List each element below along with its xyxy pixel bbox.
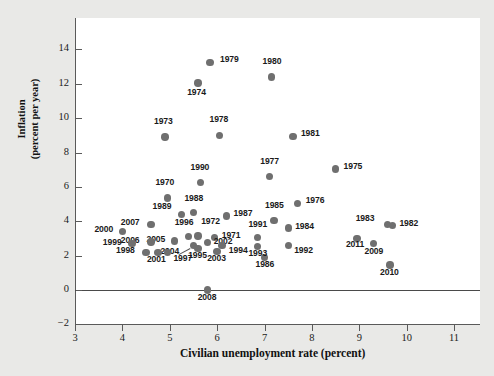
y-tick-mark <box>76 324 82 325</box>
y-tick-label: 10 <box>47 111 69 122</box>
scatter-point <box>285 242 292 249</box>
scatter-point-label: 2010 <box>380 267 399 277</box>
scatter-point-label: 2003 <box>207 253 226 263</box>
y-tick-mark <box>76 187 82 188</box>
scatter-point-label: 1982 <box>399 218 418 228</box>
scatter-point-label: 1985 <box>265 200 284 210</box>
x-tick-mark <box>170 325 171 331</box>
y-tick-mark <box>76 118 82 119</box>
x-axis-line <box>75 324 480 325</box>
x-tick-label: 11 <box>442 332 466 343</box>
scatter-point-label: 2000 <box>94 224 113 234</box>
scatter-point-label: 1989 <box>153 201 172 211</box>
scatter-point-label: 1994 <box>229 245 248 255</box>
scatter-point <box>194 232 201 239</box>
x-tick-label: 3 <box>63 332 87 343</box>
scatter-point-label: 1978 <box>209 114 228 124</box>
scatter-point-label: 2009 <box>364 246 383 256</box>
y-tick-mark <box>76 290 82 291</box>
scatter-point-label: 1984 <box>295 221 314 231</box>
scatter-point-label: 1997 <box>173 253 192 263</box>
scatter-point-label: 1977 <box>260 156 279 166</box>
scatter-point-label: 1973 <box>154 116 173 126</box>
x-tick-label: 6 <box>205 332 229 343</box>
scatter-point-label: 1979 <box>220 54 239 64</box>
x-tick-mark <box>454 325 455 331</box>
x-tick-label: 10 <box>395 332 419 343</box>
x-tick-mark <box>359 325 360 331</box>
scatter-point-label: 2011 <box>346 239 364 249</box>
y-axis-line <box>75 18 76 325</box>
scatter-point-label: 1981 <box>301 128 320 138</box>
scatter-point-label: 1976 <box>306 195 325 205</box>
scatter-point-label: 2007 <box>121 217 140 227</box>
x-axis-label: Civilian unemployment rate (percent) <box>180 347 480 359</box>
scatter-point <box>268 73 275 80</box>
zero-reference-line <box>75 290 480 291</box>
y-tick-label: 2 <box>47 249 69 260</box>
x-tick-label: 9 <box>347 332 371 343</box>
scatter-point <box>161 133 168 140</box>
scatter-point-label: 1993 <box>248 248 267 258</box>
x-tick-mark <box>217 325 218 331</box>
scatter-point <box>206 59 213 66</box>
scatter-point <box>171 237 178 244</box>
figure-canvas: Inflation (percent per year) Civilian un… <box>0 0 494 376</box>
y-tick-label: 4 <box>47 214 69 225</box>
y-tick-label: 6 <box>47 180 69 191</box>
scatter-point-label: 1987 <box>234 208 253 218</box>
x-tick-mark <box>407 325 408 331</box>
x-tick-mark <box>75 325 76 331</box>
y-tick-mark <box>76 153 82 154</box>
scatter-point-label: 1992 <box>294 245 313 255</box>
y-tick-label: 0 <box>47 283 69 294</box>
scatter-point-label: 1998 <box>116 245 135 255</box>
y-tick-label: 14 <box>47 42 69 53</box>
x-tick-mark <box>265 325 266 331</box>
scatter-point-label: 2001 <box>147 254 166 264</box>
scatter-point <box>147 221 154 228</box>
scatter-point <box>164 249 171 256</box>
y-tick-label: 8 <box>47 146 69 157</box>
scatter-point-label: 1983 <box>356 213 375 223</box>
y-tick-mark <box>76 256 82 257</box>
scatter-point <box>289 133 296 140</box>
x-tick-label: 7 <box>253 332 277 343</box>
scatter-point-label: 1974 <box>187 87 206 97</box>
y-axis-label-line2: (percent per year) <box>28 39 41 199</box>
x-tick-label: 4 <box>110 332 134 343</box>
scatter-point-label: 1975 <box>344 161 363 171</box>
scatter-point-label: 1991 <box>248 219 267 229</box>
x-tick-mark <box>122 325 123 331</box>
y-axis-label: Inflation (percent per year) <box>15 39 41 199</box>
y-tick-mark <box>76 84 82 85</box>
y-tick-mark <box>76 49 82 50</box>
scatter-point <box>147 238 154 245</box>
scatter-point-label: 1990 <box>191 162 210 172</box>
scatter-point <box>194 79 201 86</box>
scatter-point-label: 1970 <box>155 177 174 187</box>
x-tick-label: 8 <box>300 332 324 343</box>
scatter-point-label: 1988 <box>184 193 203 203</box>
scatter-point-label: 1980 <box>263 56 282 66</box>
scatter-point <box>285 224 292 231</box>
y-tick-label: 12 <box>47 77 69 88</box>
x-tick-mark <box>312 325 313 331</box>
x-tick-label: 5 <box>158 332 182 343</box>
scatter-point-label: 2008 <box>198 292 217 302</box>
y-tick-label: −2 <box>47 317 69 328</box>
scatter-point-label: 1996 <box>175 217 194 227</box>
scatter-point <box>223 212 230 219</box>
scatter-point <box>270 217 277 224</box>
scatter-point <box>332 165 339 172</box>
scatter-point-label: 1986 <box>256 259 275 269</box>
scatter-point-label: 1972 <box>201 216 220 226</box>
y-axis-label-line1: Inflation <box>15 39 28 199</box>
y-tick-mark <box>76 221 82 222</box>
